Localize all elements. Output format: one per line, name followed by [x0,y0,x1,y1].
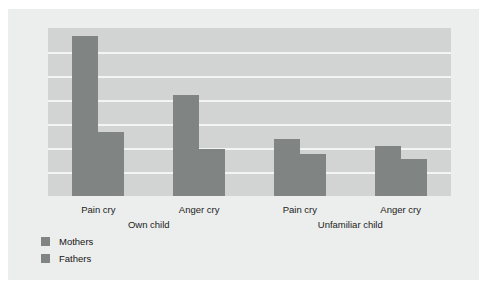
bar [375,146,401,196]
bar [72,36,98,196]
chart-figure: Pain cryAnger cryPain cryAnger cry Own c… [8,9,479,280]
group-label: Own child [89,219,209,230]
chart-legend: Mothers Fathers [41,234,93,268]
legend-swatch-fathers [41,254,50,263]
bar [173,95,199,196]
bar [274,139,300,196]
bars-layer [48,28,451,196]
group-label: Unfamiliar child [290,219,410,230]
bar [401,159,427,196]
category-label: Pain cry [260,204,340,215]
legend-item-mothers: Mothers [41,234,93,248]
legend-label-fathers: Fathers [59,253,91,264]
bar [199,149,225,196]
plot-area [48,28,451,196]
bar [300,154,326,196]
bar [98,132,124,196]
legend-item-fathers: Fathers [41,251,93,265]
category-label: Pain cry [58,204,138,215]
legend-swatch-mothers [41,237,50,246]
category-label: Anger cry [361,204,441,215]
legend-label-mothers: Mothers [59,236,93,247]
category-label: Anger cry [159,204,239,215]
